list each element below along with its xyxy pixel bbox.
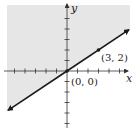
y-axis-label: y [70, 2, 78, 15]
point-label: (3, 2) [101, 52, 128, 63]
origin-point [65, 69, 69, 73]
x-axis-label: x [126, 72, 133, 85]
point-3-2 [97, 48, 101, 52]
origin-label: (0, 0) [71, 76, 98, 87]
inequality-graph: y x (0, 0) (3, 2) [0, 0, 134, 134]
